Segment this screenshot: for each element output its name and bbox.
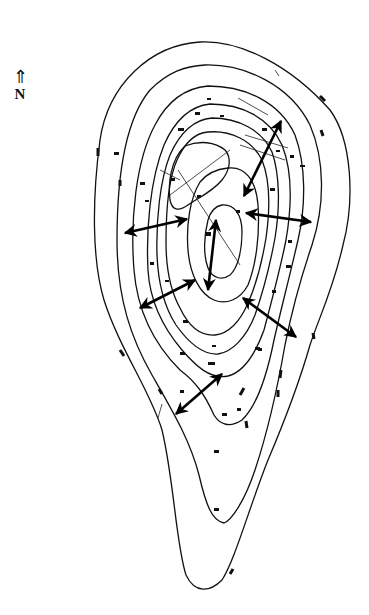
fault-line-7 xyxy=(158,404,162,418)
double-arrow-se xyxy=(243,298,296,337)
contour-map xyxy=(0,0,369,615)
fault-line-1 xyxy=(178,170,240,265)
contour-5 xyxy=(157,118,279,354)
double-arrow-ne xyxy=(244,121,281,196)
sample-markers xyxy=(114,98,305,511)
double-arrow-south xyxy=(176,374,222,414)
contour-7 xyxy=(169,143,229,210)
fault-line-8 xyxy=(275,70,279,76)
double-arrow-east xyxy=(246,213,311,222)
contour-1 xyxy=(94,42,350,589)
double-arrow-west xyxy=(125,219,187,233)
double-arrow-center xyxy=(208,220,216,290)
double-arrow-sw xyxy=(140,280,195,308)
contour-2 xyxy=(117,65,322,523)
